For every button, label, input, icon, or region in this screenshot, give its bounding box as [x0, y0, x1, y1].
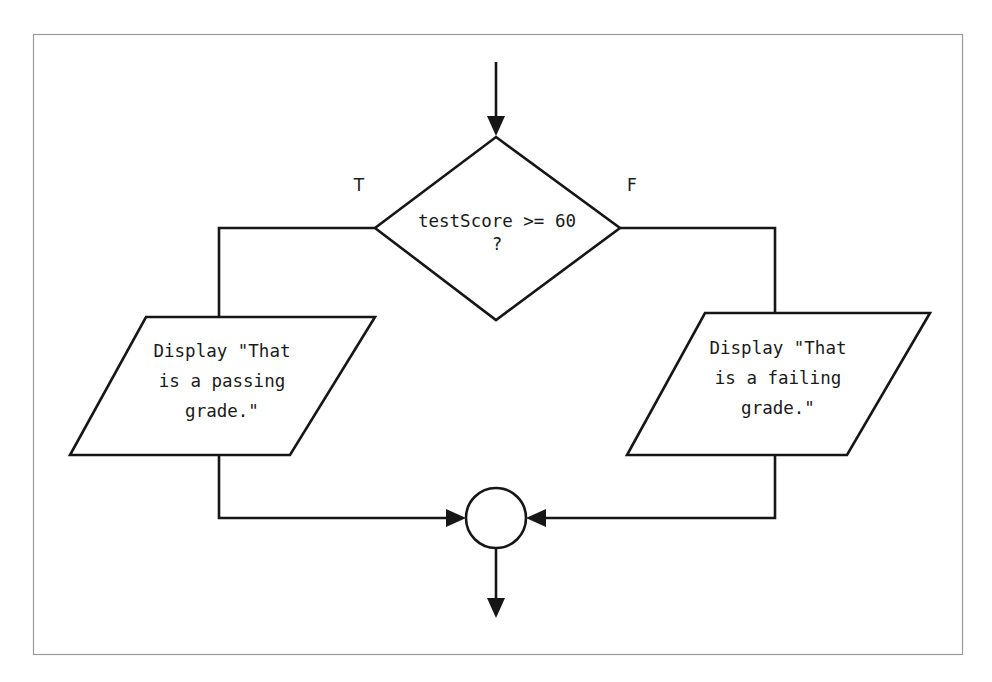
process-true-text-line2: is a passing	[159, 371, 285, 391]
process-false-text-line2: is a failing	[715, 368, 841, 388]
flowchart-canvas: testScore >= 60 ? T F Display "That is a…	[0, 0, 992, 682]
process-true-text-line3: grade."	[185, 401, 259, 421]
process-false-text-line3: grade."	[741, 398, 815, 418]
flowchart-svg: testScore >= 60 ? T F Display "That is a…	[0, 0, 992, 682]
process-true-text-line1: Display "That	[154, 341, 291, 361]
decision-text-line2: ?	[492, 234, 503, 254]
branch-label-true: T	[353, 175, 365, 195]
process-false-text-line1: Display "That	[710, 338, 847, 358]
decision-text-line1: testScore >= 60	[418, 211, 576, 231]
merge-connector-circle[interactable]	[466, 488, 526, 548]
branch-label-false: F	[627, 175, 637, 195]
